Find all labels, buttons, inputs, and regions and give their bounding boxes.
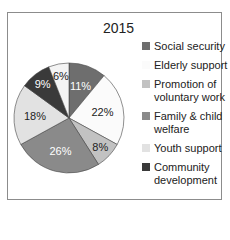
legend-swatch — [142, 80, 150, 88]
legend-label: Elderly support — [154, 59, 228, 72]
legend-item: Youth support — [140, 142, 228, 155]
legend-swatch — [142, 112, 150, 120]
legend-label: development — [154, 174, 228, 187]
legend-item: Promotion ofvoluntary work — [140, 78, 228, 104]
slice-label: 22% — [91, 106, 113, 118]
slice-label: 18% — [24, 110, 46, 122]
slice-label: 9% — [35, 78, 51, 90]
legend-label: Promotion of — [154, 78, 228, 91]
slice-label: 11% — [70, 80, 91, 92]
legend-label: Social security — [154, 40, 228, 53]
legend-item: Social security — [140, 40, 228, 53]
legend-swatch — [142, 61, 150, 69]
slice-label: 26% — [50, 145, 72, 157]
legend-item: Elderly support — [140, 59, 228, 72]
legend-label: voluntary work — [154, 91, 228, 104]
legend-label: welfare — [154, 123, 228, 136]
legend-swatch — [142, 42, 150, 50]
slice-label: 6% — [53, 70, 69, 82]
legend-swatch — [142, 163, 150, 171]
legend-item: Family & childwelfare — [140, 110, 228, 136]
legend-label: Community — [154, 161, 228, 174]
legend: Social securityElderly supportPromotion … — [140, 40, 228, 193]
legend-item: Communitydevelopment — [140, 161, 228, 187]
slice-label: 8% — [92, 141, 108, 153]
legend-swatch — [142, 144, 150, 152]
legend-label: Youth support — [154, 142, 228, 155]
legend-label: Family & child — [154, 110, 228, 123]
